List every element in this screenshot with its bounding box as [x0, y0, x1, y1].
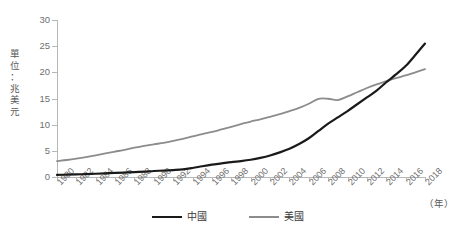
y-axis-title-char: 美 [8, 94, 22, 106]
legend-label: 中國 [187, 212, 207, 222]
legend-line-swatch [152, 216, 182, 218]
y-axis-title: 單 位 ： 兆 美 元 [8, 48, 22, 117]
y-axis-title-char: 元 [8, 106, 22, 118]
plot-area [57, 20, 425, 177]
y-tick-label: 10 [28, 120, 50, 129]
y-tick-label: 5 [28, 146, 50, 155]
series-line-usa [57, 69, 425, 161]
y-tick-label: 0 [28, 172, 50, 181]
series-line-china [57, 44, 425, 175]
y-tick-label: 25 [28, 41, 50, 50]
line-chart: 單 位 ： 兆 美 元 051015202530 198019821984198… [0, 0, 455, 238]
legend-label: 美國 [284, 212, 304, 222]
y-axis-title-char: 單 [8, 48, 22, 60]
y-axis-title-char: ： [8, 71, 22, 83]
y-tick-label: 20 [28, 67, 50, 76]
y-axis-title-char: 兆 [8, 83, 22, 95]
legend-item-china[interactable]: 中國 [152, 212, 207, 222]
x-tick-label: 2018 [423, 166, 444, 187]
y-tick-label: 30 [28, 15, 50, 24]
legend-item-usa[interactable]: 美國 [249, 212, 304, 222]
x-axis-unit-label: （年） [424, 196, 454, 210]
y-axis-title-char: 位 [8, 60, 22, 72]
legend-line-swatch [249, 216, 279, 218]
y-tick-label: 15 [28, 94, 50, 103]
series-paths [57, 20, 425, 177]
chart-legend: 中國美國 [0, 212, 455, 222]
